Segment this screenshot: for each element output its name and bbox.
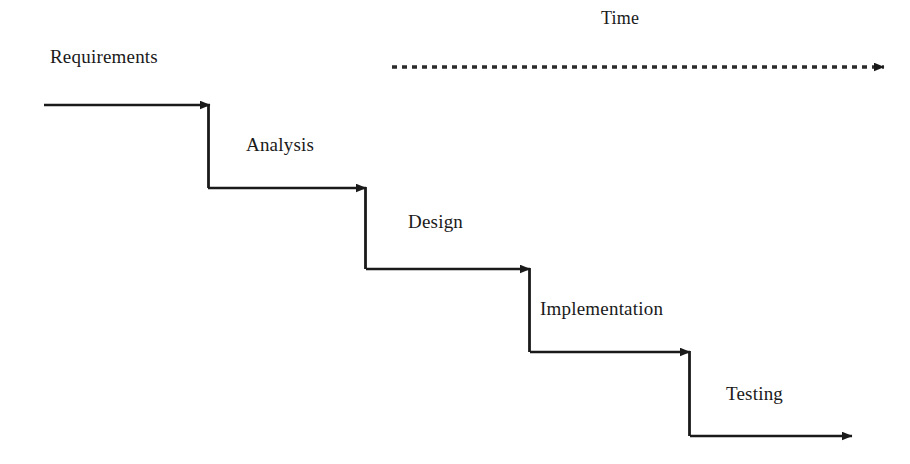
phase-step-design (366, 268, 530, 352)
phase-label-design: Design (408, 211, 463, 233)
phase-label-implementation: Implementation (540, 298, 663, 320)
phase-label-analysis: Analysis (246, 134, 314, 156)
phase-label-requirements: Requirements (50, 46, 158, 68)
time-axis-label: Time (601, 7, 639, 29)
phase-step-requirements (44, 104, 210, 188)
phase-step-analysis (208, 187, 366, 269)
phase-label-testing: Testing (726, 383, 783, 405)
phase-step-implementation (530, 351, 690, 436)
